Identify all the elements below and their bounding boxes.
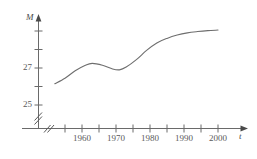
x-tick-label-1990: 1990: [165, 134, 203, 143]
y-axis-arrow-icon: [36, 14, 42, 22]
x-tick-label-1960: 1960: [63, 134, 101, 143]
y-tick-label-27: 27: [16, 63, 32, 72]
graph-figure: M t 27 25 1960 1970 1980 1990 2000: [0, 0, 257, 159]
x-tick-label-1980: 1980: [131, 134, 169, 143]
y-axis-label: M: [26, 13, 34, 22]
y-tick-label-25: 25: [16, 100, 32, 109]
x-tick-label-1970: 1970: [97, 134, 135, 143]
data-curve: [55, 30, 218, 84]
x-axis-label: t: [239, 132, 242, 141]
x-tick-label-2000: 2000: [199, 134, 237, 143]
